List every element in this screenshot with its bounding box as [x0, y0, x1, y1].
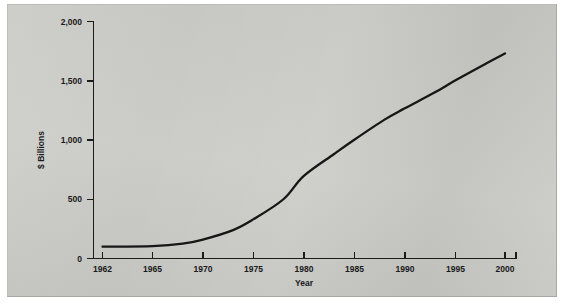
x-tick-label-1990: 1990 [396, 264, 415, 274]
y-axis-title: $ Billions [36, 131, 46, 169]
x-tick-label-2000: 2000 [496, 264, 515, 274]
x-tick-label-1975: 1975 [244, 264, 263, 274]
x-tick-label-1970: 1970 [194, 264, 213, 274]
y-tick-label-1500: 1,500 [61, 76, 83, 86]
x-axis-title: Year [295, 278, 314, 288]
y-tick-label-2000: 2,000 [61, 17, 83, 27]
x-tick-label-1985: 1985 [345, 264, 364, 274]
chart-plate: 2,000 1,500 1,000 500 0 $ Billions [7, 4, 557, 297]
y-tick-label-0: 0 [77, 254, 82, 264]
x-axis: 1962 1965 1970 1975 1980 1985 1990 1995 … [93, 252, 516, 288]
data-series-line [103, 54, 506, 247]
y-tick-label-1000: 1,000 [61, 135, 83, 145]
x-tick-label-1962: 1962 [93, 264, 112, 274]
chart-figure: 2,000 1,500 1,000 500 0 $ Billions [0, 0, 564, 305]
y-tick-marks [87, 22, 94, 259]
x-tick-label-1995: 1995 [446, 264, 465, 274]
line-chart: 2,000 1,500 1,000 500 0 $ Billions [8, 5, 557, 297]
x-tick-marks [103, 252, 517, 259]
x-tick-label-1980: 1980 [295, 264, 314, 274]
x-tick-label-1965: 1965 [143, 264, 162, 274]
y-axis: 2,000 1,500 1,000 500 0 $ Billions [36, 17, 94, 264]
y-tick-label-500: 500 [68, 194, 82, 204]
